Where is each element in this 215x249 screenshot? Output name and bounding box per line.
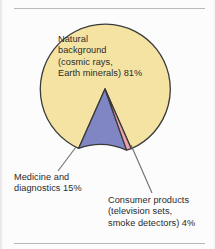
slice-label-consumer: Consumer products (television sets, smok… bbox=[108, 195, 212, 229]
leader-line-consumer bbox=[131, 145, 152, 193]
leader-line-medicine bbox=[58, 147, 76, 171]
slice-label-medicine: Medicine and diagnostics 15% bbox=[14, 172, 110, 195]
slice-label-natural: Natural background (cosmic rays, Earth m… bbox=[58, 34, 162, 80]
radiation-pie-figure: Natural background (cosmic rays, Earth m… bbox=[0, 0, 215, 249]
